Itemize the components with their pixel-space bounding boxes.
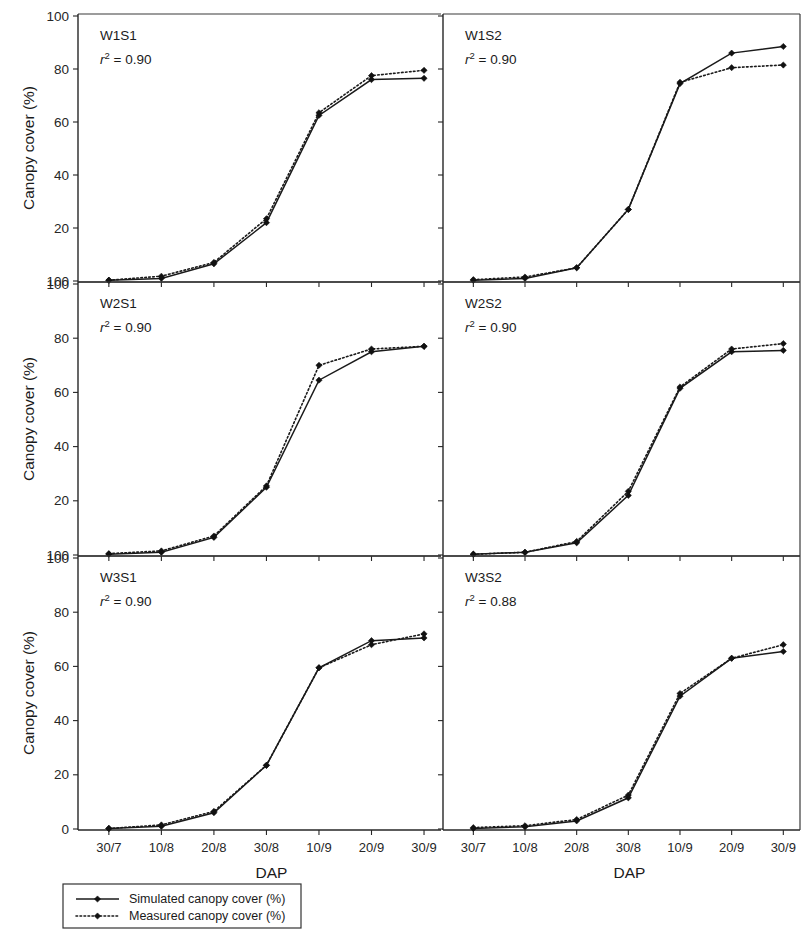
y-tick-label: 80 — [54, 62, 69, 77]
marker-simulated-20-9 — [729, 50, 735, 56]
y-tick-label: 100 — [46, 277, 69, 292]
panel-title: W1S2 — [465, 28, 502, 43]
series-line-measured — [109, 346, 424, 553]
marker-measured-10-8 — [522, 549, 528, 555]
panel-title: W2S1 — [100, 296, 137, 311]
panel-r2-label: r2 = 0.90 — [100, 50, 151, 67]
x-tick-label: 30/9 — [771, 840, 796, 855]
legend: Simulated canopy cover (%)Measured canop… — [63, 884, 301, 928]
series-line-measured — [473, 65, 783, 280]
series-line-simulated — [473, 652, 783, 829]
series-line-simulated — [473, 47, 783, 281]
marker-simulated-10-9 — [316, 377, 322, 383]
panel-w3s2: 30/710/820/830/810/920/930/9W3S2r2 = 0.8… — [438, 556, 800, 855]
marker-measured-30-9 — [780, 341, 786, 347]
marker-measured-10-9 — [316, 665, 322, 671]
panel-w2s2: W2S2r2 = 0.90 — [438, 282, 800, 561]
x-tick-label: 20/9 — [359, 840, 384, 855]
panel-w1s1: 10020406080100W1S1r2 = 0.90 — [46, 9, 441, 289]
panel-title: W2S2 — [465, 296, 502, 311]
series-line-simulated — [109, 638, 424, 829]
panel-title: W1S1 — [100, 28, 137, 43]
panel-r2-label: r2 = 0.90 — [100, 318, 151, 335]
y-tick-label: 60 — [54, 115, 69, 130]
x-tick-label: 10/8 — [512, 840, 537, 855]
marker-simulated-30-9 — [780, 648, 786, 654]
marker-measured-20-9 — [368, 73, 374, 79]
panel-r2-label: r2 = 0.88 — [465, 592, 516, 609]
y-tick-label: 40 — [54, 168, 69, 183]
x-tick-label: 30/8 — [254, 840, 279, 855]
y-axis-title: Canopy cover (%) — [20, 357, 37, 481]
series-line-simulated — [109, 346, 424, 554]
y-tick-label: 40 — [54, 439, 69, 454]
x-tick-label: 20/9 — [719, 840, 744, 855]
marker-measured-30-9 — [421, 631, 427, 637]
y-tick-label: 80 — [54, 331, 69, 346]
marker-measured-20-9 — [729, 65, 735, 71]
y-axis-title: Canopy cover (%) — [20, 631, 37, 755]
panel-title: W3S2 — [465, 570, 502, 585]
panel-r2-label: r2 = 0.90 — [100, 592, 151, 609]
marker-simulated-30-9 — [421, 75, 427, 81]
y-tick-label: 40 — [54, 713, 69, 728]
marker-measured-30-9 — [780, 642, 786, 648]
panel-r2-label: r2 = 0.90 — [465, 50, 516, 67]
x-axis-title: DAP — [256, 864, 288, 881]
x-axis-title: DAP — [614, 864, 646, 881]
x-tick-label: 30/7 — [461, 840, 486, 855]
x-tick-label: 20/8 — [201, 840, 226, 855]
x-tick-label: 30/8 — [616, 840, 641, 855]
marker-simulated-30-9 — [780, 347, 786, 353]
panel-r2-label: r2 = 0.90 — [465, 318, 516, 335]
y-tick-label: 20 — [54, 493, 69, 508]
figure-canvas: 10020406080100W1S1r2 = 0.90Canopy cover … — [0, 0, 807, 937]
x-tick-label: 30/9 — [411, 840, 436, 855]
series-line-measured — [473, 344, 783, 555]
panel-title: W3S1 — [100, 570, 137, 585]
panel-w1s2: W1S2r2 = 0.90 — [438, 14, 800, 287]
y-tick-label: 100 — [46, 9, 69, 24]
series-line-simulated — [473, 350, 783, 554]
marker-simulated-30-9 — [780, 43, 786, 49]
marker-measured-30-9 — [421, 67, 427, 73]
y-axis-title: Canopy cover (%) — [20, 86, 37, 210]
panel-w3s1: 02040608010030/710/820/830/810/920/930/9… — [46, 551, 441, 856]
marker-measured-30-9 — [421, 343, 427, 349]
legend-label-measured: Measured canopy cover (%) — [129, 909, 285, 923]
series-line-simulated — [109, 78, 424, 280]
legend-label-simulated: Simulated canopy cover (%) — [129, 892, 285, 906]
y-tick-label: 60 — [54, 659, 69, 674]
y-tick-label: 0 — [61, 822, 69, 837]
y-tick-label: 20 — [54, 767, 69, 782]
x-tick-label: 10/9 — [306, 840, 331, 855]
series-line-measured — [109, 634, 424, 829]
x-tick-label: 30/7 — [96, 840, 121, 855]
y-tick-label: 20 — [54, 221, 69, 236]
marker-measured-30-9 — [780, 62, 786, 68]
y-tick-label: 60 — [54, 385, 69, 400]
series-line-measured — [109, 70, 424, 280]
multipanel-line-chart: 10020406080100W1S1r2 = 0.90Canopy cover … — [0, 0, 807, 937]
y-tick-label: 100 — [46, 551, 69, 566]
x-tick-label: 10/9 — [667, 840, 692, 855]
y-tick-label: 80 — [54, 605, 69, 620]
x-tick-label: 10/8 — [149, 840, 174, 855]
x-tick-label: 20/8 — [564, 840, 589, 855]
panel-w2s1: 10020406080100W2S1r2 = 0.90 — [46, 277, 441, 563]
marker-measured-10-9 — [316, 362, 322, 368]
